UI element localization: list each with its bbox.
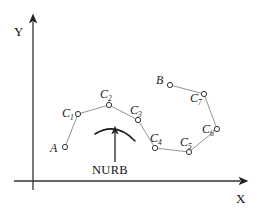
control-point-marker-c4	[152, 145, 157, 150]
control-point-label-a: A	[49, 141, 58, 155]
control-point-subscript-c5: 5	[188, 142, 192, 151]
nurb-control-polygon-figure: Y X AC1C2C3C4C5C6C7B NURB	[0, 0, 263, 215]
control-point-subscript-c6: 6	[210, 129, 214, 138]
control-point-marker-a	[62, 144, 67, 149]
control-point-marker-b	[167, 82, 172, 87]
control-point-label-b: B	[156, 73, 164, 87]
control-point-marker-c6	[214, 126, 219, 131]
control-point-subscript-c4: 4	[158, 138, 162, 147]
control-point-subscript-c7: 7	[198, 98, 202, 107]
control-point-labels: AC1C2C3C4C5C6C7B	[49, 73, 214, 155]
nurb-label: NURB	[92, 163, 128, 177]
nurb-annotation-group: NURB	[92, 129, 135, 177]
figure-canvas: Y X AC1C2C3C4C5C6C7B NURB	[0, 0, 263, 215]
control-point-marker-c1	[75, 111, 80, 116]
control-point-marker-c7	[201, 91, 206, 96]
y-axis-label: Y	[14, 24, 24, 39]
control-point-subscript-c2: 2	[108, 94, 112, 103]
x-axis-label: X	[236, 191, 246, 206]
control-point-subscript-c1: 1	[70, 113, 74, 122]
control-point-subscript-c3: 3	[137, 110, 142, 119]
control-point-marker-c2	[106, 102, 111, 107]
